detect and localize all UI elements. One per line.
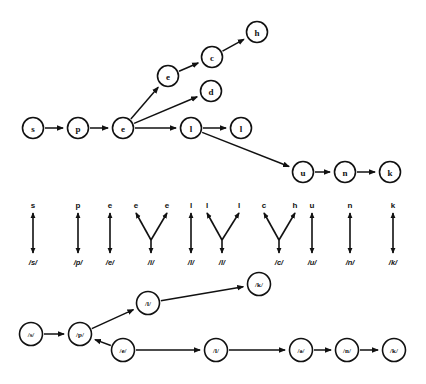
alignment-letter-label: e <box>165 201 170 210</box>
alignment-letter-label: s <box>31 201 36 210</box>
letter-node-label: d <box>208 87 213 97</box>
phoneme-node-label: /n/ <box>342 347 352 355</box>
alignment-group: n/n/ <box>345 201 356 267</box>
letter-node: e <box>113 118 134 139</box>
letter-node-label: p <box>75 124 80 134</box>
phoneme-node: /k/ <box>248 273 271 296</box>
alignment-arrow-up <box>222 213 239 240</box>
phoneme-edge <box>161 287 243 301</box>
letter-node-label: s <box>31 124 35 134</box>
letter-node-label: e <box>166 72 170 82</box>
phoneme-node-label: /e/ <box>119 347 128 355</box>
alignment-letter-label: e <box>108 201 113 210</box>
letter-graph-nodes: speechdllunk <box>23 22 401 183</box>
phoneme-graph-nodes: /s//p//l//k//e//l//ə//n//k/ <box>20 273 406 362</box>
phoneme-node-label: /l/ <box>144 300 152 308</box>
phoneme-node: /s/ <box>20 323 43 346</box>
alignment-letter-label: n <box>348 201 353 210</box>
alignment-letter-label: l <box>206 201 208 210</box>
letter-node-label: n <box>342 168 347 178</box>
letter-node: n <box>335 162 356 183</box>
alignment-letter-label: h <box>293 201 298 210</box>
phoneme-edge <box>95 340 111 346</box>
letter-node: k <box>380 162 401 183</box>
alignment-group: p/p/ <box>73 201 84 267</box>
letter-node: s <box>23 118 44 139</box>
phoneme-node: /ə/ <box>290 339 313 362</box>
letter-node: e <box>158 66 179 87</box>
alignment-arrow-up <box>279 213 295 240</box>
alignment-letter-label: k <box>391 201 396 210</box>
alignment-phoneme-label: /l/ <box>218 258 226 267</box>
letter-node: d <box>201 81 222 102</box>
phoneme-node: /e/ <box>112 339 135 362</box>
alignment-group: ch/c/ <box>262 201 298 267</box>
alignment-phoneme-label: /n/ <box>345 258 356 267</box>
letter-node-label: k <box>387 168 392 178</box>
alignment-phoneme-label: /u/ <box>307 258 318 267</box>
alignment-phoneme-label: /s/ <box>28 258 38 267</box>
phoneme-node: /l/ <box>205 339 228 362</box>
alignment-phoneme-label: /e/ <box>105 258 115 267</box>
alignment-arrow-up <box>151 213 167 240</box>
phoneme-node-label: /ə/ <box>297 347 306 355</box>
alignment-phoneme-label: /k/ <box>388 258 398 267</box>
letter-node: p <box>68 118 89 139</box>
alignment-arrow-up <box>264 213 279 240</box>
letter-node: l <box>181 118 202 139</box>
letter-node: h <box>247 22 268 43</box>
alignment-group: ll/l/ <box>206 201 240 267</box>
letter-node-label: u <box>300 168 305 178</box>
letter-node: u <box>293 162 314 183</box>
figure-canvas: speechdllunk s/s/p/p/e/e/ee/i/l/l/ll/l/c… <box>0 0 426 384</box>
phoneme-node-label: /k/ <box>254 281 264 289</box>
phoneme-node: /l/ <box>137 292 160 315</box>
letter-edge <box>222 39 243 51</box>
alignment-letter-label: e <box>134 201 139 210</box>
phoneme-node: /p/ <box>69 323 92 346</box>
alignment-letter-label: c <box>262 201 267 210</box>
alignment-arrow-up <box>136 213 151 240</box>
alignment-phoneme-label: /c/ <box>274 258 284 267</box>
phoneme-node: /k/ <box>383 339 406 362</box>
letter-node: l <box>231 118 252 139</box>
alignment-phoneme-label: /l/ <box>187 258 195 267</box>
linguistics-alignment-diagram: speechdllunk s/s/p/p/e/e/ee/i/l/l/ll/l/c… <box>0 0 426 384</box>
alignment-group: e/e/ <box>105 201 115 267</box>
alignment-letter-label: l <box>190 201 192 210</box>
alignment-group: k/k/ <box>388 201 398 267</box>
alignment-group: s/s/ <box>28 201 38 267</box>
letter-node-label: c <box>210 53 214 63</box>
phoneme-node: /n/ <box>336 339 359 362</box>
phoneme-edge <box>92 310 134 329</box>
alignment-group: ee/i/ <box>134 201 170 267</box>
letter-edge <box>179 63 198 71</box>
alignment-arrows: s/s/p/p/e/e/ee/i/l/l/ll/l/ch/c/u/u/n/n/k… <box>28 201 398 267</box>
letter-node-label: h <box>254 28 259 38</box>
phoneme-node-label: /p/ <box>75 331 85 339</box>
alignment-phoneme-label: /p/ <box>73 258 84 267</box>
phoneme-node-label: /k/ <box>389 347 399 355</box>
phoneme-node-label: /s/ <box>27 331 36 339</box>
alignment-letter-label: p <box>76 201 81 210</box>
alignment-arrow-up <box>207 213 222 240</box>
phoneme-node-label: /l/ <box>212 347 220 355</box>
alignment-group: u/u/ <box>307 201 318 267</box>
alignment-group: l/l/ <box>187 201 195 267</box>
alignment-phoneme-label: /i/ <box>147 258 155 267</box>
letter-node-label: e <box>121 124 125 134</box>
alignment-letter-label: l <box>238 201 240 210</box>
letter-node: c <box>202 47 223 68</box>
alignment-letter-label: u <box>310 201 315 210</box>
